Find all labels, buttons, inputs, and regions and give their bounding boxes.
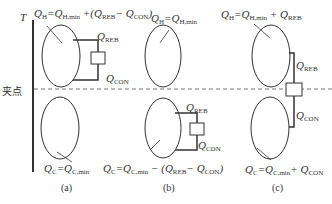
panel-c-bottom-formula: QC=QC,min+ QCON <box>245 164 323 177</box>
panel-b <box>145 25 204 158</box>
panel-c-top-formula: QH=QH,min + QREB <box>221 9 302 22</box>
panel-a-reb-label: QREB <box>97 31 119 44</box>
heat-engine-box <box>190 123 204 135</box>
cold-composite-ellipse <box>41 97 79 159</box>
panel-b-top-formula: QH=QH,min <box>151 13 197 26</box>
hot-composite-ellipse <box>145 25 181 87</box>
panel-c-con-label: QCON <box>296 110 319 123</box>
panel-a-bottom-formula: QC=QC,min <box>44 163 89 176</box>
panel-b-con-label: QCON <box>198 140 221 153</box>
heat-engine-box <box>91 52 105 64</box>
pinch-label: 夹点 <box>2 83 22 98</box>
hot-composite-ellipse <box>252 25 290 87</box>
panel-b-caption: (b) <box>163 182 175 193</box>
panel-a-top-formula: QH=QH,min +(QREB− QCON) <box>34 8 152 21</box>
heat-engine-box <box>286 83 302 96</box>
panel-a-caption: (a) <box>61 182 72 193</box>
axis-label: T <box>20 12 26 23</box>
panel-c <box>251 24 302 160</box>
cold-composite-ellipse <box>145 98 181 158</box>
panel-b-reb-label: QREB <box>186 102 208 115</box>
panel-a-con-label: QCON <box>106 73 129 86</box>
panel-a <box>41 25 105 162</box>
hot-composite-ellipse <box>42 25 80 87</box>
cold-composite-ellipse <box>251 97 289 159</box>
panel-c-reb-label: QREB <box>296 60 318 73</box>
panel-b-bottom-formula: QC=QC,min − (QREB− QCON) <box>103 163 223 176</box>
panel-c-caption: (c) <box>272 182 283 193</box>
